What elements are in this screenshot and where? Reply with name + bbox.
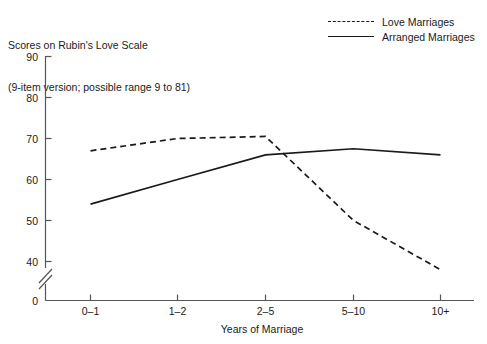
y-tick-label-50: 50	[26, 215, 38, 227]
y-tick-label-0: 0	[32, 295, 38, 307]
x-tick-label-1: 1–2	[169, 305, 187, 317]
y-axis-ticks	[46, 57, 52, 262]
y-axis-break-icon-1	[39, 269, 52, 283]
x-tick-label-0: 0–1	[82, 305, 100, 317]
chart-figure: Scores on Rubin's Love Scale (9-item ver…	[0, 0, 487, 344]
series-line-arranged-marriages	[91, 149, 441, 204]
y-tick-label-90: 90	[26, 51, 38, 63]
x-tick-label-2: 2–5	[257, 305, 275, 317]
series-line-love-marriages	[91, 136, 441, 269]
x-tick-label-3: 5–10	[342, 305, 366, 317]
x-axis-title: Years of Marriage	[221, 323, 304, 335]
y-tick-label-70: 70	[26, 133, 38, 145]
x-axis-ticks	[91, 295, 441, 301]
y-tick-label-40: 40	[26, 256, 38, 268]
y-tick-label-60: 60	[26, 174, 38, 186]
y-tick-label-80: 80	[26, 92, 38, 104]
x-tick-label-4: 10+	[432, 305, 450, 317]
plot-area: 90 80 70 60 50 40 0 0–1 1–2 2–5 5–10 10+…	[0, 0, 487, 344]
